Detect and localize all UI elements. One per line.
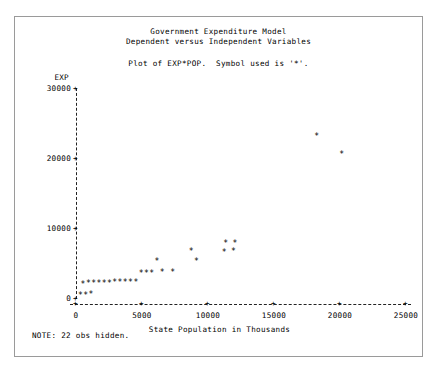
data-point: * bbox=[160, 269, 165, 277]
data-point: * bbox=[149, 270, 154, 278]
data-point: * bbox=[223, 240, 228, 248]
data-point: * bbox=[139, 270, 144, 278]
data-point: * bbox=[86, 280, 91, 288]
data-point: * bbox=[194, 258, 199, 266]
data-point: * bbox=[144, 270, 149, 278]
data-point: * bbox=[314, 133, 319, 141]
data-point: * bbox=[155, 258, 160, 266]
data-points-layer: **************************** bbox=[15, 17, 424, 358]
data-point: * bbox=[107, 280, 112, 288]
data-point: * bbox=[133, 279, 138, 287]
data-point: * bbox=[89, 291, 94, 299]
data-point: * bbox=[339, 151, 344, 159]
screenshot-root: Government Expenditure Model Dependent v… bbox=[0, 0, 443, 384]
data-point: * bbox=[231, 248, 236, 256]
data-point: * bbox=[112, 279, 117, 287]
data-point: * bbox=[123, 279, 128, 287]
data-point: * bbox=[222, 249, 227, 257]
data-point: * bbox=[78, 292, 83, 300]
data-point: * bbox=[91, 280, 96, 288]
data-point: * bbox=[96, 280, 101, 288]
note-text: NOTE: 22 obs hidden. bbox=[32, 331, 129, 340]
data-point: * bbox=[83, 292, 88, 300]
data-point: * bbox=[118, 279, 123, 287]
plot-area: EXP 30000 + 20000 + 10000 + 0 + + + + + … bbox=[15, 17, 424, 358]
data-point: * bbox=[128, 279, 133, 287]
output-window-frame: Government Expenditure Model Dependent v… bbox=[14, 16, 423, 357]
data-point: * bbox=[102, 280, 107, 288]
data-point: * bbox=[170, 269, 175, 277]
data-point: * bbox=[232, 240, 237, 248]
data-point: * bbox=[81, 281, 86, 289]
data-point: * bbox=[189, 248, 194, 256]
